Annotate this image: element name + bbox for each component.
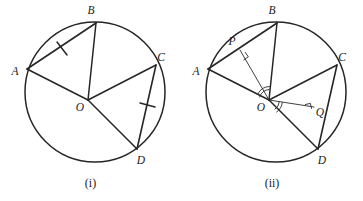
caption-panel-i: (i) bbox=[0, 176, 181, 191]
vertex-label-A-i: A bbox=[10, 65, 19, 77]
radius-OC-i bbox=[88, 65, 156, 100]
vertex-label-P-ii: P bbox=[227, 35, 235, 47]
radius-OC-ii bbox=[269, 65, 337, 100]
vertex-label-D-i: D bbox=[136, 154, 146, 166]
radius-OA-i bbox=[27, 69, 88, 100]
figure-canvas: A B C D O bbox=[0, 0, 363, 201]
vertex-label-C-ii: C bbox=[338, 51, 346, 63]
panel-i: A B C D O bbox=[10, 4, 165, 166]
panel-ii: A B C D O P Q bbox=[191, 4, 346, 166]
circle-outline-ii bbox=[206, 22, 346, 162]
vertex-label-A-ii: A bbox=[191, 65, 200, 77]
circle-outline-i bbox=[25, 22, 165, 162]
vertex-label-O-i: O bbox=[76, 101, 85, 113]
radius-OD-i bbox=[88, 100, 137, 149]
radius-OB-i bbox=[88, 23, 96, 100]
vertex-label-B-i: B bbox=[87, 4, 94, 16]
vertex-label-Q-ii: Q bbox=[316, 106, 325, 118]
vertex-label-C-i: C bbox=[157, 51, 165, 63]
geometry-figure: A B C D O bbox=[0, 0, 363, 201]
radius-OD-ii bbox=[269, 100, 318, 149]
right-angle-mark-P-ii bbox=[244, 52, 249, 60]
vertex-label-O-ii: O bbox=[257, 101, 266, 113]
vertex-label-B-ii: B bbox=[268, 4, 275, 16]
caption-panel-ii: (ii) bbox=[181, 176, 363, 191]
vertex-label-D-ii: D bbox=[317, 154, 327, 166]
radius-OB-ii bbox=[269, 23, 277, 100]
